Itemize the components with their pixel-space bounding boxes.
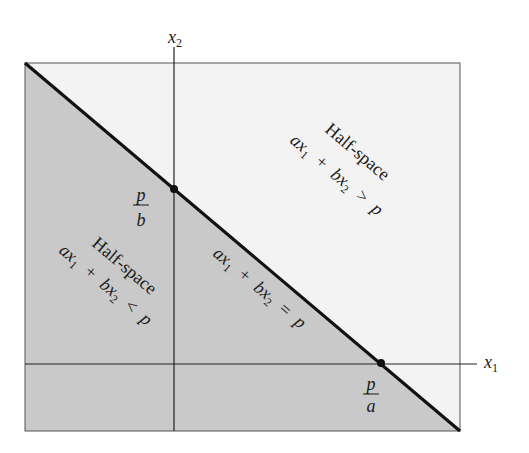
x1-axis-label: x1: [483, 352, 498, 375]
svg-text:p: p: [365, 374, 376, 394]
x2-axis-label: x2: [167, 27, 182, 50]
svg-text:a: a: [367, 396, 376, 416]
svg-text:b: b: [137, 210, 146, 230]
svg-text:p: p: [135, 185, 146, 205]
half-space-diagram: x2 x1 p b p a ax1+bx2=p Half-space ax1+b…: [0, 0, 529, 453]
y-intercept-point: [170, 185, 178, 193]
x-intercept-point: [377, 359, 385, 367]
